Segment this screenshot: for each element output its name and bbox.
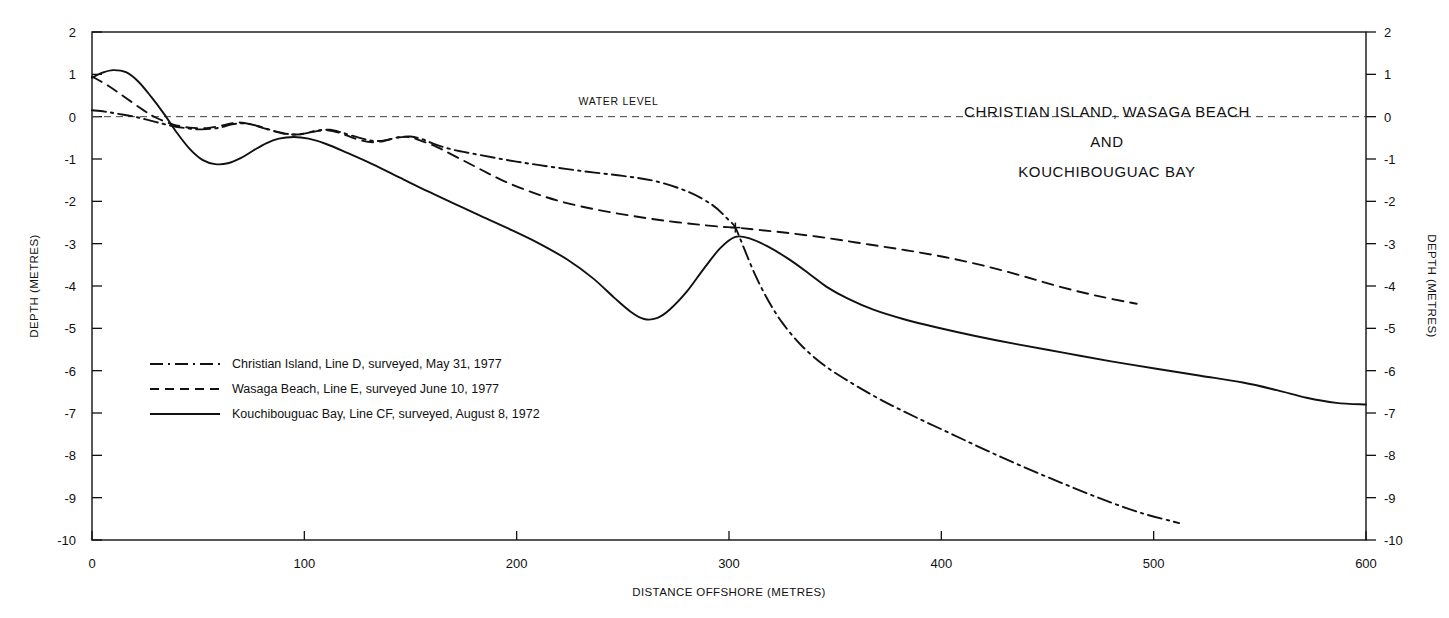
y-tick-label-left--6: -6 — [64, 364, 76, 379]
chart-annotations: WATER LEVEL — [579, 95, 741, 233]
series-path-2 — [92, 70, 1366, 404]
y-tick-label-left--8: -8 — [64, 448, 76, 463]
legend-label-1: Wasaga Beach, Line E, surveyed June 10, … — [232, 382, 499, 396]
chart-title-line-0: CHRISTIAN ISLAND, WASAGA BEACH — [964, 103, 1250, 120]
bathymetric-profile-chart: 0100200300400500600 210-1-2-3-4-5-6-7-8-… — [0, 0, 1449, 618]
y-tick-label-right--9: -9 — [1384, 491, 1396, 506]
x-axis-ticks — [92, 531, 1366, 540]
y-tick-label-left-0: 0 — [69, 110, 76, 125]
x-tick-label-500: 500 — [1143, 556, 1165, 571]
x-tick-label-0: 0 — [88, 556, 95, 571]
y-axis-title-right: DEPTH (METRES) — [1426, 234, 1438, 337]
y-tick-label-left--1: -1 — [64, 152, 76, 167]
x-tick-label-100: 100 — [293, 556, 315, 571]
x-axis-title: DISTANCE OFFSHORE (METRES) — [632, 586, 826, 598]
y-tick-label-left-2: 2 — [69, 25, 76, 40]
y-tick-label-right--2: -2 — [1384, 194, 1396, 209]
y-tick-label-right--3: -3 — [1384, 237, 1396, 252]
y-axis-title-left: DEPTH (METRES) — [28, 234, 40, 337]
x-axis-tick-labels: 0100200300400500600 — [88, 556, 1376, 571]
y-tick-label-left--7: -7 — [64, 406, 76, 421]
data-series — [92, 70, 1366, 523]
y-tick-label-right--6: -6 — [1384, 364, 1396, 379]
y-axis-ticks-right — [1366, 32, 1376, 540]
y-tick-label-right-1: 1 — [1384, 67, 1391, 82]
y-tick-label-left--4: -4 — [64, 279, 76, 294]
y-tick-label-right--8: -8 — [1384, 448, 1396, 463]
y-tick-label-right--5: -5 — [1384, 321, 1396, 336]
x-tick-label-300: 300 — [718, 556, 740, 571]
water-level-label: WATER LEVEL — [579, 95, 659, 107]
x-tick-label-400: 400 — [930, 556, 952, 571]
y-tick-label-right-2: 2 — [1384, 25, 1391, 40]
y-tick-label-right--10: -10 — [1384, 533, 1403, 548]
y-tick-label-right--7: -7 — [1384, 406, 1396, 421]
y-tick-label-right--1: -1 — [1384, 152, 1396, 167]
y-tick-label-left--2: -2 — [64, 194, 76, 209]
y-axis-tick-labels-right: 210-1-2-3-4-5-6-7-8-9-10 — [1384, 25, 1403, 548]
y-axis-ticks-left — [92, 32, 102, 540]
y-tick-label-left-1: 1 — [69, 67, 76, 82]
y-tick-label-left--9: -9 — [64, 491, 76, 506]
x-tick-label-600: 600 — [1355, 556, 1377, 571]
y-tick-label-left--5: -5 — [64, 321, 76, 336]
y-tick-label-right--4: -4 — [1384, 279, 1396, 294]
legend-label-0: Christian Island, Line D, surveyed, May … — [232, 357, 502, 371]
y-axis-tick-labels-left: 210-1-2-3-4-5-6-7-8-9-10 — [57, 25, 76, 548]
y-tick-label-left--10: -10 — [57, 533, 76, 548]
chart-title-line-1: AND — [1090, 133, 1123, 150]
chart-legend: Christian Island, Line D, surveyed, May … — [150, 357, 540, 421]
y-tick-label-right-0: 0 — [1384, 110, 1391, 125]
chart-titles: CHRISTIAN ISLAND, WASAGA BEACHANDKOUCHIB… — [28, 103, 1438, 598]
y-tick-label-left--3: -3 — [64, 237, 76, 252]
legend-label-2: Kouchibouguac Bay, Line CF, surveyed, Au… — [232, 407, 540, 421]
series-path-0 — [92, 110, 1179, 523]
chart-title-line-2: KOUCHIBOUGUAC BAY — [1018, 163, 1195, 180]
chart-page: 0100200300400500600 210-1-2-3-4-5-6-7-8-… — [0, 0, 1449, 618]
x-tick-label-200: 200 — [506, 556, 528, 571]
